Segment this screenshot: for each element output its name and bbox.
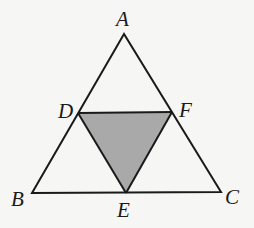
label-a: A <box>114 7 129 31</box>
label-f: F <box>178 98 192 122</box>
triangle-diagram: A B C D E F <box>0 0 254 228</box>
segment-df <box>78 112 172 113</box>
label-d: D <box>57 99 73 123</box>
label-b: B <box>11 187 24 211</box>
label-c: C <box>225 185 240 209</box>
label-e: E <box>116 198 130 222</box>
shaded-triangle-def <box>78 112 172 193</box>
